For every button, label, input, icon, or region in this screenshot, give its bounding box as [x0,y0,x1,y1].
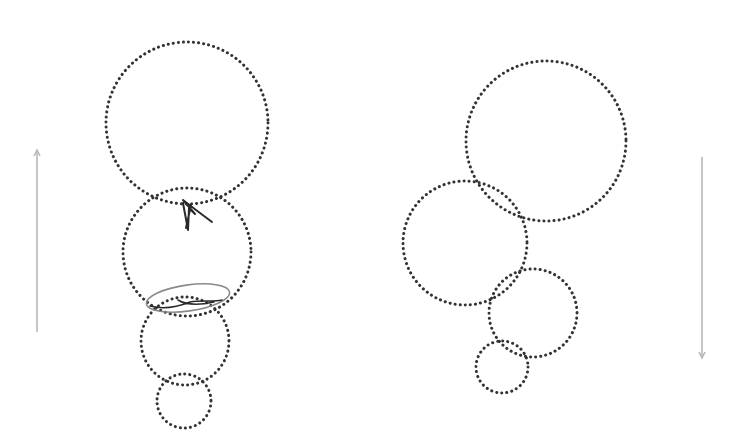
diagram-canvas [0,0,743,440]
left-dotted-circle-1 [106,42,268,204]
right-dotted-circle-3 [489,269,577,357]
left-circle-stack [106,42,268,428]
scribble-marks [145,200,232,317]
direction-arrows [34,150,705,358]
right-circle-stack [403,61,626,393]
right-dotted-circle-2 [403,181,527,305]
right-dotted-circle-1 [466,61,626,221]
right-dotted-circle-4 [476,341,528,393]
left-dotted-circle-4 [157,374,211,428]
